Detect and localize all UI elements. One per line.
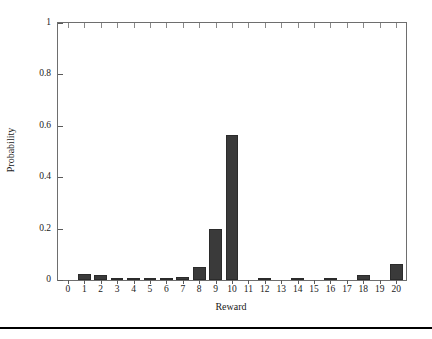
- bar: [193, 267, 206, 280]
- x-tick-label: 13: [276, 285, 286, 295]
- x-tick-label: 18: [359, 285, 369, 295]
- bar: [144, 278, 157, 280]
- bar: [94, 275, 107, 280]
- bar: [324, 278, 337, 280]
- bar: [209, 229, 222, 280]
- x-tick-label: 11: [244, 285, 253, 295]
- y-tick-label: 0: [46, 275, 51, 285]
- bar-series: [58, 23, 406, 280]
- x-tick-label: 9: [213, 285, 218, 295]
- x-tick-label: 12: [260, 285, 270, 295]
- bar: [258, 278, 271, 280]
- footer-rule: [0, 327, 432, 329]
- x-tick-label: 14: [293, 285, 303, 295]
- x-tick-label: 20: [391, 285, 401, 295]
- y-tick-label: 0.8: [39, 70, 51, 80]
- bar: [357, 275, 370, 280]
- bar: [291, 278, 304, 280]
- plot-area: 00.20.40.60.81 0123456789101112131415161…: [57, 22, 407, 281]
- x-tick-label: 15: [309, 285, 319, 295]
- x-tick-label: 3: [115, 285, 120, 295]
- bar: [390, 264, 403, 280]
- x-tick-label: 5: [148, 285, 153, 295]
- x-tick-label: 16: [326, 285, 336, 295]
- y-tick-label: 0.2: [39, 224, 51, 234]
- x-tick-label: 7: [180, 285, 185, 295]
- bar: [127, 278, 140, 280]
- bar: [226, 135, 239, 280]
- x-tick-label: 4: [131, 285, 136, 295]
- bar: [160, 278, 173, 280]
- x-tick-label: 17: [342, 285, 352, 295]
- y-tick-mark: [58, 280, 63, 281]
- x-tick-label: 10: [227, 285, 237, 295]
- y-axis-title: Probability: [6, 128, 16, 172]
- x-axis-title: Reward: [57, 302, 405, 312]
- figure-container: Probability 00.20.40.60.81 0123456789101…: [0, 0, 432, 339]
- y-tick-label: 1: [46, 18, 51, 28]
- x-tick-label: 1: [82, 285, 87, 295]
- x-tick-label: 8: [197, 285, 202, 295]
- bar: [78, 274, 91, 280]
- x-tick-label: 19: [375, 285, 385, 295]
- bar: [111, 278, 124, 280]
- y-tick-label: 0.6: [39, 121, 51, 131]
- bar: [176, 277, 189, 280]
- x-tick-label: 6: [164, 285, 169, 295]
- x-tick-label: 2: [98, 285, 103, 295]
- y-tick-label: 0.4: [39, 172, 51, 182]
- x-tick-label: 0: [65, 285, 70, 295]
